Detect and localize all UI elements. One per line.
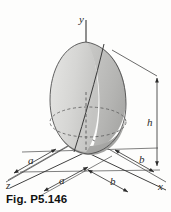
axis-label-y: y (78, 13, 84, 25)
dimension-a-front-label: a (59, 174, 65, 186)
grid-line-z-2 (40, 156, 112, 196)
figure-caption: Fig. P5.146 (6, 193, 67, 205)
axis-label-z: z (5, 179, 11, 191)
solid-of-revolution (50, 42, 126, 155)
dimension-h-label: h (147, 116, 153, 128)
figure-container: h a a b b y x z Fig. P5.146 (0, 0, 171, 212)
dimension-a-front-arrow (44, 167, 88, 191)
dimension-b-right-label: b (139, 153, 145, 165)
technical-diagram: h a a b b y x z (0, 0, 171, 212)
dimension-h: h (147, 78, 157, 166)
solid-left-surface (50, 42, 99, 152)
grid-line-z-1 (8, 140, 78, 180)
dimension-b-front-arrow (88, 170, 128, 192)
dimension-b-front: b (88, 170, 128, 192)
dimension-a-front: a (44, 167, 88, 191)
dimension-a-left-label: a (28, 154, 34, 166)
axis-label-x: x (157, 180, 163, 192)
dimension-b-front-label: b (110, 175, 116, 187)
